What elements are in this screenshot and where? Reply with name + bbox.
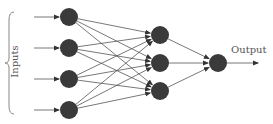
edge — [78, 49, 150, 61]
neural-network-diagram: Inputs Output — [0, 0, 273, 124]
hidden-node — [151, 26, 169, 44]
input-node — [60, 70, 78, 88]
edge — [78, 93, 150, 108]
edge — [78, 19, 150, 33]
input-node — [60, 8, 78, 26]
hidden-node — [151, 82, 169, 100]
input-node — [60, 39, 78, 57]
input-node — [60, 101, 78, 119]
edge — [77, 21, 151, 58]
edge — [78, 65, 150, 78]
edge — [168, 39, 209, 59]
inputs-label: Inputs — [9, 42, 20, 82]
edge — [168, 67, 209, 87]
network-graph — [0, 0, 273, 124]
output-label: Output — [231, 44, 267, 55]
output-node — [209, 54, 227, 72]
hidden-node — [151, 54, 169, 72]
